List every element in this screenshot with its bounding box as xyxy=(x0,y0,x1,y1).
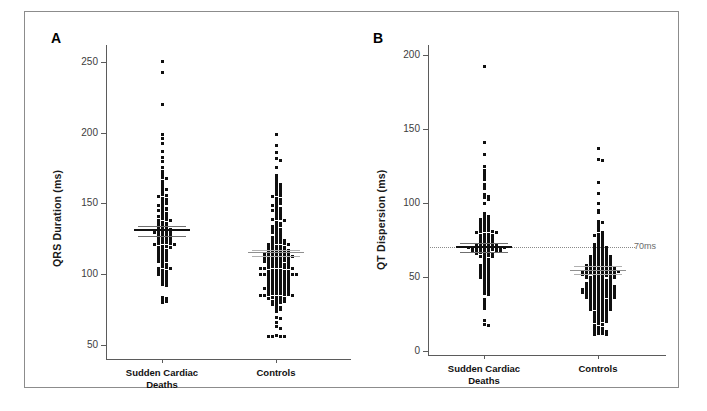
data-point xyxy=(161,160,164,163)
data-point xyxy=(157,215,160,218)
data-point xyxy=(275,316,278,319)
data-point xyxy=(165,177,168,180)
ci-line-A-0-low xyxy=(138,236,186,237)
y-tick-label-100: 100 xyxy=(64,268,98,279)
y-tick-label-0: 0 xyxy=(386,345,420,356)
data-point xyxy=(491,248,494,251)
data-point xyxy=(597,332,600,335)
data-point xyxy=(275,321,278,324)
data-point xyxy=(259,267,262,270)
mean-line-A-1 xyxy=(248,252,304,253)
data-point xyxy=(161,103,164,106)
data-point xyxy=(275,265,278,268)
data-point xyxy=(275,144,278,147)
y-tick-100 xyxy=(423,203,428,204)
data-point xyxy=(279,301,282,304)
ci-line-B-0-high xyxy=(460,243,508,244)
data-point xyxy=(161,156,164,159)
data-point xyxy=(483,141,486,144)
data-point xyxy=(157,195,160,198)
data-point xyxy=(165,266,168,269)
data-point xyxy=(275,193,278,196)
data-point xyxy=(483,196,486,199)
data-point xyxy=(479,230,482,233)
data-point xyxy=(165,218,168,221)
data-point xyxy=(271,335,274,338)
data-point xyxy=(153,231,156,234)
data-point xyxy=(479,276,482,279)
data-point xyxy=(597,322,600,325)
x-tick-1 xyxy=(598,355,599,359)
data-point xyxy=(165,259,168,262)
y-tick-200 xyxy=(101,133,106,134)
data-point xyxy=(169,246,172,249)
data-point xyxy=(605,333,608,336)
data-point xyxy=(279,335,282,338)
mean-line-B-1 xyxy=(570,270,626,271)
data-point xyxy=(275,151,278,154)
data-point xyxy=(263,287,266,290)
ci-line-B-0-low xyxy=(460,252,508,253)
data-point xyxy=(483,178,486,181)
data-point xyxy=(283,300,286,303)
data-point xyxy=(263,273,266,276)
y-tick-label-150: 150 xyxy=(64,197,98,208)
data-point xyxy=(279,327,282,330)
data-point xyxy=(483,65,486,68)
y-tick-label-100: 100 xyxy=(386,197,420,208)
data-point xyxy=(267,297,270,300)
data-point xyxy=(267,293,270,296)
data-point xyxy=(483,202,486,205)
y-tick-50 xyxy=(101,345,106,346)
data-point xyxy=(291,267,294,270)
panel-b: B QT Dispersion (ms) 050100150200 Sudden… xyxy=(355,12,680,389)
data-point xyxy=(287,243,290,246)
data-point xyxy=(597,229,600,232)
data-point xyxy=(279,159,282,162)
data-point xyxy=(585,276,588,279)
y-tick-label-50: 50 xyxy=(64,339,98,350)
y-tick-label-150: 150 xyxy=(386,123,420,134)
data-point xyxy=(491,255,494,258)
data-point xyxy=(597,158,600,161)
y-tick-250 xyxy=(101,62,106,63)
data-point xyxy=(483,229,486,232)
data-point xyxy=(279,202,282,205)
data-point xyxy=(283,219,286,222)
data-point xyxy=(271,265,274,268)
data-point xyxy=(279,317,282,320)
data-point xyxy=(291,294,294,297)
y-tick-label-50: 50 xyxy=(386,271,420,282)
data-point xyxy=(259,273,262,276)
panel-a-y-axis xyxy=(106,45,107,359)
panel-b-x-axis xyxy=(428,355,666,356)
data-point xyxy=(487,229,490,232)
data-point xyxy=(275,133,278,136)
data-point xyxy=(161,265,164,268)
panel-a-plot-area: 50100150200250 xyxy=(25,12,355,389)
data-point xyxy=(157,273,160,276)
data-point xyxy=(279,194,282,197)
panel-a-group-label-sudden-cardiac-deaths: Sudden Cardiac Deaths xyxy=(107,367,217,391)
y-tick-200 xyxy=(423,55,428,56)
data-point xyxy=(593,307,596,310)
data-point xyxy=(613,276,616,279)
data-point xyxy=(275,217,278,220)
data-point xyxy=(475,231,478,234)
data-point xyxy=(165,188,168,191)
data-point xyxy=(487,324,490,327)
data-point xyxy=(161,60,164,63)
data-point xyxy=(259,294,262,297)
data-point xyxy=(161,217,164,220)
ci-line-B-1-low xyxy=(574,274,622,275)
data-point xyxy=(487,254,490,257)
data-point xyxy=(487,293,490,296)
data-point xyxy=(157,260,160,263)
data-point xyxy=(161,176,164,179)
data-point xyxy=(279,265,282,268)
y-tick-label-200: 200 xyxy=(64,127,98,138)
data-point xyxy=(165,194,168,197)
data-point xyxy=(581,291,584,294)
data-point xyxy=(271,195,274,198)
data-point xyxy=(263,260,266,263)
